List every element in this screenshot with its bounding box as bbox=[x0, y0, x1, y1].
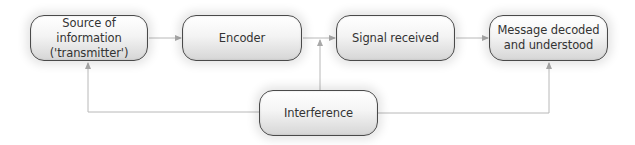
node-message-decoded: Message decoded and understood bbox=[489, 15, 608, 61]
node-label: Interference bbox=[284, 106, 353, 121]
arrow-interference-to-message bbox=[378, 63, 549, 113]
node-label-line: Source of information bbox=[31, 16, 147, 46]
node-interference: Interference bbox=[259, 90, 378, 136]
node-label: Signal received bbox=[352, 31, 439, 46]
node-signal-received: Signal received bbox=[336, 15, 455, 61]
node-encoder: Encoder bbox=[182, 15, 302, 61]
node-label-line: Message decoded bbox=[498, 23, 600, 38]
diagram-canvas: Source of information ('transmitter') En… bbox=[0, 0, 635, 145]
node-label-line: and understood bbox=[498, 38, 600, 53]
node-label: Encoder bbox=[219, 31, 265, 46]
node-source-of-information: Source of information ('transmitter') bbox=[30, 15, 148, 61]
arrow-interference-to-source bbox=[88, 63, 259, 112]
node-label-line: ('transmitter') bbox=[31, 46, 147, 61]
